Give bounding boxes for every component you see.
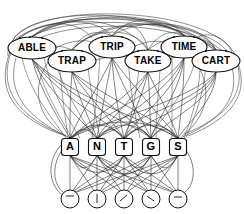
letter-to-terminal-edges <box>70 156 178 193</box>
letter-node-label: T <box>121 140 128 152</box>
letter-node-label: G <box>147 140 156 152</box>
word-node-w6[interactable]: CART <box>192 50 240 72</box>
word-node-w1[interactable]: ABLE <box>8 37 56 59</box>
word-node-label: TRIP <box>100 41 124 52</box>
terminal-node-shape <box>61 190 79 208</box>
letter-node-label: S <box>174 140 182 152</box>
terminal-node-t1[interactable] <box>61 190 79 208</box>
terminal-node-shape <box>169 190 187 208</box>
word-node-label: TAKE <box>134 55 161 66</box>
letter-node-label: N <box>93 140 101 152</box>
letter-node-l4[interactable]: G <box>143 139 160 156</box>
word-node-w2[interactable]: TRAP <box>48 50 96 72</box>
letter-node-l5[interactable]: S <box>170 139 187 156</box>
graph-svg: ABLE TRIP TIME TRAP TAKE CART A N <box>0 0 244 214</box>
terminal-node-shape <box>115 190 133 208</box>
terminal-node-t3[interactable] <box>115 190 133 208</box>
diagram-canvas: ABLE TRIP TIME TRAP TAKE CART A N <box>0 0 244 214</box>
word-node-label: CART <box>202 55 231 66</box>
letter-node-l3[interactable]: T <box>116 139 133 156</box>
terminal-node-t5[interactable] <box>169 190 187 208</box>
word-node-w4[interactable]: TAKE <box>125 50 171 72</box>
word-node-w3[interactable]: TRIP <box>89 36 135 58</box>
terminal-node-t4[interactable] <box>142 190 160 208</box>
terminal-node-t2[interactable] <box>88 190 106 208</box>
letter-node-l2[interactable]: N <box>89 139 106 156</box>
word-node-label: TIME <box>172 41 197 52</box>
letter-node-label: A <box>66 140 74 152</box>
word-node-label: TRAP <box>58 55 86 66</box>
word-node-label: ABLE <box>18 42 46 53</box>
letter-node-l1[interactable]: A <box>62 139 79 156</box>
